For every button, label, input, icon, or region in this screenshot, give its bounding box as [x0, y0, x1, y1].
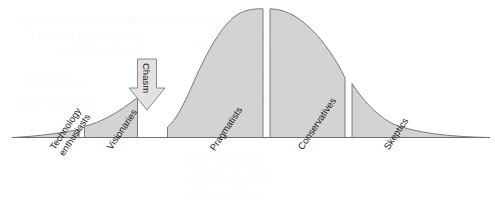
curve-segment-skeptics	[352, 84, 490, 138]
technology-adoption-lifecycle-figure: ing the time to market theen the marketi…	[0, 0, 495, 206]
curve-segment-pragmatists	[168, 9, 264, 138]
curve-segment-conservatives	[270, 9, 345, 138]
chasm-label: Chasm	[141, 63, 152, 93]
adoption-curve-svg	[0, 0, 495, 206]
